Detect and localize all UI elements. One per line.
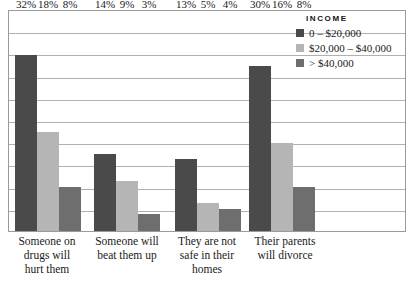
category-label-line: hurt them — [8, 262, 86, 276]
bar[interactable]: 8% — [59, 187, 81, 231]
bar-slot: 18% — [37, 11, 59, 231]
bar-value-label: 18% — [38, 0, 58, 11]
category-label: They are notsafe in theirhomes — [168, 234, 246, 276]
legend-item-label: 0 – $20,000 — [309, 27, 361, 39]
category-label-line: They are not — [168, 234, 246, 248]
bar-value-label: 8% — [297, 0, 312, 11]
bar-value-label: 32% — [16, 0, 36, 11]
bar-group: 14%9%3% — [94, 11, 160, 231]
bar[interactable]: 32% — [15, 55, 37, 231]
legend-entries: 0 – $20,000$20,000 – $40,000> $40,000 — [296, 26, 408, 69]
bar-slot: 4% — [219, 11, 241, 231]
category-label: Their parentswill divorce — [242, 234, 328, 262]
bar-slot: 13% — [175, 11, 197, 231]
bar[interactable]: 4% — [219, 209, 241, 231]
category-label-line: drugs will — [8, 248, 86, 262]
category-label-line: homes — [168, 262, 246, 276]
legend-item[interactable]: 0 – $20,000 — [296, 26, 408, 39]
bar-slot: 5% — [197, 11, 219, 231]
bar[interactable]: 14% — [94, 154, 116, 231]
bar[interactable]: 9% — [116, 181, 138, 231]
bar[interactable]: 16% — [271, 143, 293, 231]
bar-slot: 9% — [116, 11, 138, 231]
bar[interactable]: 5% — [197, 203, 219, 231]
bar-value-label: 3% — [142, 0, 157, 11]
bar-value-label: 30% — [250, 0, 270, 11]
category-label-line: Their parents — [242, 234, 328, 248]
legend-item[interactable]: $20,000 – $40,000 — [296, 41, 408, 54]
legend-item-label: > $40,000 — [309, 57, 354, 69]
category-label-line: Someone will — [87, 234, 167, 248]
category-label: Someone willbeat them up — [87, 234, 167, 262]
bar-value-label: 8% — [63, 0, 78, 11]
bar-value-label: 14% — [95, 0, 115, 11]
bar-value-label: 16% — [272, 0, 292, 11]
category-label-line: safe in their — [168, 248, 246, 262]
bar-value-label: 9% — [120, 0, 135, 11]
legend-swatch-mid-income — [296, 44, 304, 52]
bar-slot: 3% — [138, 11, 160, 231]
bar-group: 13%5%4% — [175, 11, 241, 231]
legend-swatch-low-income — [296, 29, 304, 37]
bar-value-label: 4% — [223, 0, 238, 11]
legend-item-label: $20,000 – $40,000 — [309, 42, 392, 54]
bar-slot: 30% — [249, 11, 271, 231]
bar-slot: 8% — [59, 11, 81, 231]
legend-swatch-high-income — [296, 59, 304, 67]
bar[interactable]: 3% — [138, 214, 160, 231]
bar-slot: 14% — [94, 11, 116, 231]
bar[interactable]: 13% — [175, 159, 197, 231]
bar[interactable]: 30% — [249, 66, 271, 231]
category-label: Someone ondrugs willhurt them — [8, 234, 86, 276]
bar-value-label: 13% — [176, 0, 196, 11]
category-label-line: beat them up — [87, 248, 167, 262]
bar-group: 32%18%8% — [15, 11, 81, 231]
category-label-line: Someone on — [8, 234, 86, 248]
legend-title: INCOME — [306, 14, 408, 23]
bar-chart: 32%18%8%14%9%3%13%5%4%30%16%8% Someone o… — [0, 0, 414, 288]
bar-slot: 32% — [15, 11, 37, 231]
legend: INCOME 0 – $20,000$20,000 – $40,000> $40… — [296, 14, 408, 71]
category-label-line: will divorce — [242, 248, 328, 262]
bar[interactable]: 18% — [37, 132, 59, 231]
category-axis-labels: Someone ondrugs willhurt themSomeone wil… — [8, 234, 406, 288]
legend-item[interactable]: > $40,000 — [296, 56, 408, 69]
bar[interactable]: 8% — [293, 187, 315, 231]
bar-slot: 16% — [271, 11, 293, 231]
bar-value-label: 5% — [201, 0, 216, 11]
